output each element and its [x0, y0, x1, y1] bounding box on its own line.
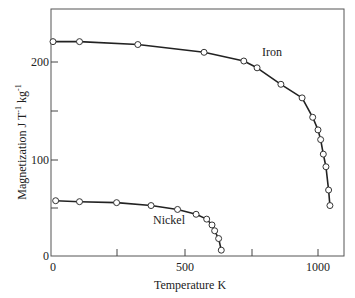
iron-data-point [327, 203, 333, 209]
iron-data-point [254, 65, 260, 71]
iron-data-point [241, 58, 247, 64]
nickel-data-point [77, 199, 83, 205]
iron-data-point [50, 39, 56, 45]
iron-curve [53, 42, 330, 206]
nickel-data-point [212, 228, 218, 234]
nickel-data-point [175, 206, 181, 212]
iron-data-point [278, 81, 284, 87]
iron-data-point [201, 49, 207, 55]
y-tick-label-0: 0 [43, 249, 49, 263]
x-ticks [117, 249, 318, 256]
y-tick-label-200: 200 [31, 55, 49, 69]
nickel-data-point [204, 216, 210, 222]
plot-frame [51, 9, 344, 256]
y-tick-label-100: 100 [31, 153, 49, 167]
nickel-data-point [216, 236, 222, 242]
iron-data-point [135, 42, 141, 48]
nickel-data-point [148, 203, 154, 209]
chart: 0 500 1000 0 100 200 Temperature K Magne… [0, 0, 355, 298]
iron-label: Iron [262, 45, 282, 59]
iron-data-point [77, 39, 83, 45]
nickel-series [53, 198, 225, 253]
y-axis-title: Magnetization J T-1 kg-1 [14, 84, 29, 199]
nickel-data-point [209, 222, 215, 228]
nickel-data-point [193, 211, 199, 217]
iron-data-point [323, 164, 329, 170]
iron-series [50, 39, 333, 209]
x-tick-label-500: 500 [176, 260, 194, 274]
nickel-data-point [114, 200, 120, 206]
x-tick-label-1000: 1000 [306, 260, 330, 274]
iron-data-point [315, 127, 321, 133]
x-axis-title: Temperature K [154, 278, 226, 292]
iron-data-point [326, 187, 332, 193]
iron-data-point [320, 151, 326, 157]
iron-data-point [318, 137, 324, 143]
nickel-curve [56, 201, 222, 250]
series-layer [50, 39, 333, 254]
y-ticks [51, 62, 58, 208]
nickel-data-point [53, 198, 59, 204]
nickel-label: Nickel [153, 213, 186, 227]
iron-data-point [299, 95, 305, 101]
x-tick-label-0: 0 [50, 260, 56, 274]
nickel-data-point [218, 247, 224, 253]
iron-data-point [310, 114, 316, 120]
